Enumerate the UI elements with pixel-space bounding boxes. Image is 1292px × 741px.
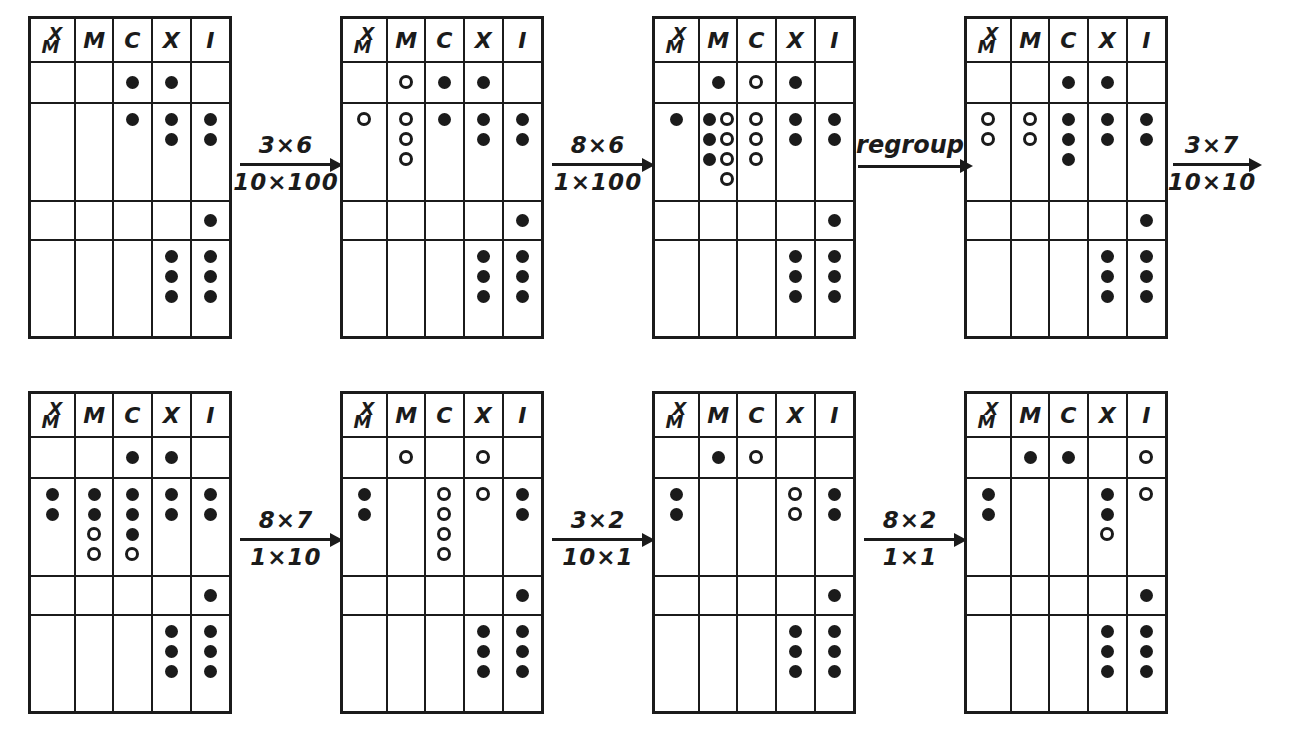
filled-counter [46, 488, 59, 501]
board-cell [1089, 202, 1128, 239]
filled-counter [438, 76, 451, 89]
board-row-4 [967, 241, 1165, 336]
header-letter: C [436, 28, 452, 53]
counter-stacks [358, 488, 371, 521]
filled-counter [1024, 451, 1037, 464]
counter-stack [1140, 250, 1153, 303]
board-cell [655, 438, 700, 477]
column-header-XM: XM [967, 394, 1012, 436]
board-cell [153, 577, 192, 614]
counter-stack [1062, 113, 1075, 166]
filled-counter [1062, 153, 1075, 166]
place-value-label: 1×100 [554, 169, 642, 195]
board-cell [967, 438, 1012, 477]
counter-stack [1101, 488, 1114, 541]
board-cell [777, 438, 816, 477]
board-cell [816, 479, 853, 575]
board-cell [777, 202, 816, 239]
board-cell [76, 438, 114, 477]
right-arrow-icon [240, 163, 332, 166]
board-cell [388, 616, 426, 711]
board-cell [114, 202, 152, 239]
counter-stack [516, 589, 529, 602]
board-cell [967, 202, 1012, 239]
board-cell [1089, 241, 1128, 336]
filled-counter [204, 589, 217, 602]
column-header-X: X [465, 19, 504, 61]
board-row-4 [31, 241, 229, 336]
column-header-C: C [426, 19, 464, 61]
board-cell [655, 63, 700, 102]
header-letter: M [1019, 403, 1041, 428]
header-letter: C [1060, 28, 1076, 53]
counter-stacks [477, 113, 490, 146]
open-counter [476, 450, 490, 464]
column-header-X: X [153, 394, 192, 436]
board-cell [192, 577, 229, 614]
board-cell [76, 577, 114, 614]
header-letter: M [978, 41, 996, 54]
board-cell [1050, 577, 1088, 614]
column-header-C: C [1050, 394, 1088, 436]
open-counter [1023, 132, 1037, 146]
board-cell [655, 479, 700, 575]
board-cell [343, 577, 388, 614]
board-row-1 [31, 438, 229, 479]
board-cell [114, 616, 152, 711]
open-counter [749, 450, 763, 464]
counter-stack [789, 113, 802, 146]
board-cell [777, 479, 816, 575]
board-cell [700, 104, 738, 200]
board-header-row: XMMCXI [343, 19, 541, 63]
column-header-X: X [1089, 394, 1128, 436]
filled-counter [516, 290, 529, 303]
board-cell [76, 104, 114, 200]
counter-stacks [828, 250, 841, 303]
open-counter [437, 507, 451, 521]
counter-stack [204, 113, 217, 146]
counter-stack [204, 488, 217, 521]
board-cell [967, 63, 1012, 102]
counter-stacks [750, 113, 763, 166]
board-cell [192, 479, 229, 575]
board-cell [738, 202, 776, 239]
column-header-M: M [1012, 19, 1050, 61]
column-header-X: X [777, 19, 816, 61]
counter-stack [477, 76, 490, 89]
board-cell [738, 63, 776, 102]
board-cell [700, 616, 738, 711]
board-cell [465, 63, 504, 102]
board-row-4 [343, 241, 541, 336]
board-cell [388, 438, 426, 477]
board-cell [31, 438, 76, 477]
header-letter: I [1142, 28, 1150, 53]
open-counter [1139, 450, 1153, 464]
counter-stack [750, 113, 763, 166]
filled-counter [516, 133, 529, 146]
header-letter: I [1142, 403, 1150, 428]
filled-counter [516, 645, 529, 658]
board-row-2 [31, 104, 229, 202]
board-row-1 [967, 63, 1165, 104]
board-cell [153, 104, 192, 200]
header-letter: X [787, 28, 804, 53]
header-letter: I [206, 403, 214, 428]
board-cell [1050, 438, 1088, 477]
filled-counter [516, 113, 529, 126]
counter-stack [126, 76, 139, 89]
counter-stacks [982, 113, 995, 146]
counter-stacks [1101, 113, 1114, 146]
filled-counter [204, 290, 217, 303]
filled-counter [712, 76, 725, 89]
counter-stacks [670, 488, 683, 521]
counter-stacks [400, 113, 413, 166]
filled-counter [982, 508, 995, 521]
filled-counter [1140, 270, 1153, 283]
board-cell [967, 577, 1012, 614]
counter-stacks [204, 488, 217, 521]
column-header-XM: XM [655, 19, 700, 61]
board-cell [114, 479, 152, 575]
board-cell [465, 202, 504, 239]
board-cell [700, 202, 738, 239]
column-header-XM: XM [31, 19, 76, 61]
